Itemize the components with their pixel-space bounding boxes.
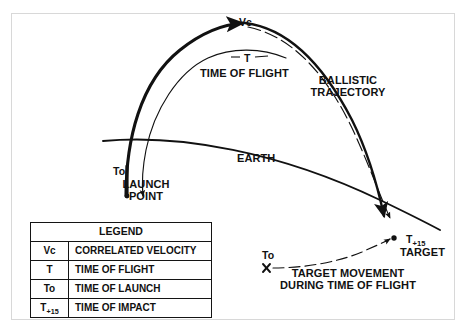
label-correlated-velocity-symbol: Vc: [239, 17, 252, 28]
legend-description-t15: TIME OF IMPACT: [69, 299, 211, 317]
launch-point-line-2: POINT: [129, 190, 163, 202]
label-target: TARGET: [400, 247, 445, 259]
launch-point-line-1: LAUNCH: [122, 178, 169, 190]
label-time-of-flight-symbol: T: [244, 53, 251, 64]
legend-symbol-t15: T+15: [31, 299, 69, 317]
legend-title-row: LEGEND: [31, 223, 211, 241]
target-start-x-marker: [263, 264, 270, 272]
legend-row-t: T TIME OF FLIGHT: [31, 260, 211, 279]
label-earth: EARTH: [237, 153, 275, 165]
legend-table: LEGEND Vc CORRELATED VELOCITY T TIME OF …: [30, 222, 212, 318]
target-movement-line-2: DURING TIME OF FLIGHT: [280, 279, 416, 291]
label-ballistic-trajectory: BALLISTIC TRAJECTORY: [311, 75, 386, 99]
ballistic-line-1: BALLISTIC: [319, 74, 377, 86]
legend-description-to: TIME OF LAUNCH: [69, 280, 211, 298]
legend-symbol-t15-subscript: +15: [46, 307, 58, 316]
legend-symbol-to: To: [31, 280, 69, 298]
legend-row-t15: T+15 TIME OF IMPACT: [31, 298, 211, 317]
label-launch-point: LAUNCH POINT: [122, 179, 169, 203]
legend-title: LEGEND: [31, 223, 211, 239]
target-movement-line-1: TARGET MOVEMENT: [292, 267, 405, 279]
ballistic-trajectory-dashed: [248, 27, 390, 218]
legend-symbol-t: T: [31, 261, 69, 279]
legend-row-to: To TIME OF LAUNCH: [31, 279, 211, 298]
target-movement-arrow: [273, 239, 390, 268]
legend-symbol-vc: Vc: [31, 242, 69, 260]
label-time-of-flight: TIME OF FLIGHT: [200, 68, 289, 80]
label-target-movement: TARGET MOVEMENT DURING TIME OF FLIGHT: [280, 268, 416, 292]
t-symbol-leader-right: [255, 56, 268, 57]
ballistic-line-2: TRAJECTORY: [311, 86, 386, 98]
legend-description-t: TIME OF FLIGHT: [69, 261, 211, 279]
target-impact-dot: [391, 235, 396, 240]
legend-row-vc: Vc CORRELATED VELOCITY: [31, 241, 211, 260]
label-target-start-time-symbol: To: [262, 250, 274, 261]
label-launch-time-symbol: To: [113, 166, 125, 177]
legend-description-vc: CORRELATED VELOCITY: [69, 242, 211, 260]
diagram-figure: Vc T TIME OF FLIGHT BALLISTIC TRAJECTORY…: [0, 0, 470, 335]
